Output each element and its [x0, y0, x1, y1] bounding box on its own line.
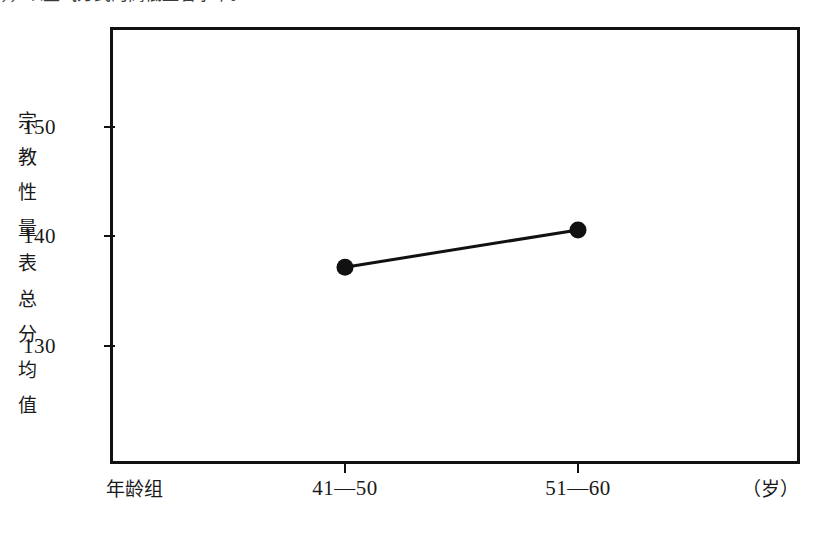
y-axis-title: 宗 教 性 量 表 总 分 均 值 — [14, 104, 40, 424]
y-axis-title-char: 性 — [14, 175, 40, 211]
x-tick-label: 41—50 — [275, 476, 415, 500]
y-tick-label: 130 — [10, 336, 56, 357]
y-tick-mark — [104, 126, 115, 128]
x-tick-mark — [344, 462, 346, 473]
x-axis-title: 年龄组 — [106, 477, 163, 501]
y-tick-mark — [104, 235, 115, 237]
x-tick-label: 51—60 — [508, 476, 648, 500]
y-tick-mark — [104, 345, 115, 347]
y-tick-label: 140 — [10, 226, 56, 247]
y-axis-title-char: 总 — [14, 282, 40, 318]
x-axis-unit: （岁） — [742, 477, 799, 501]
plot-frame — [110, 27, 800, 464]
y-axis-title-char: 值 — [14, 388, 40, 424]
x-tick-mark — [577, 462, 579, 473]
y-axis-title-char: 教 — [14, 140, 40, 176]
y-tick-label: 150 — [10, 117, 56, 138]
y-axis-title-char: 表 — [14, 246, 40, 282]
clipped-header-text: ，，以生气方式的高低显著水平。 — [0, 0, 300, 6]
